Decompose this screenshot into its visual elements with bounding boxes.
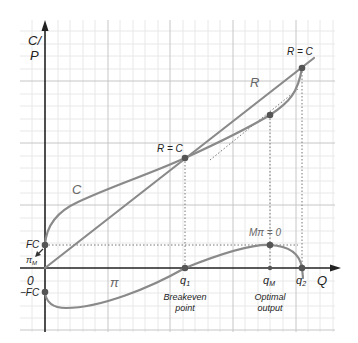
- y-axis-label-line2: P: [30, 48, 39, 63]
- y-axis-arrow-icon: [42, 20, 49, 31]
- major-grid: [20, 20, 335, 332]
- optimal-annotation-line2: output: [257, 303, 283, 313]
- cost-revenue-profit-diagram: C/ P Q 0 R C π R = C R = C Mπ = 0 FC −FC…: [0, 0, 358, 343]
- q1-tick-label: q1: [180, 274, 190, 287]
- neg-fixed-cost-point: [42, 289, 49, 296]
- breakeven-high-point: [299, 65, 306, 72]
- cost-label: C: [72, 182, 82, 197]
- fixed-cost-label: FC: [26, 239, 40, 250]
- qM-tick-label: qM: [263, 274, 275, 287]
- q1-point: [182, 265, 189, 272]
- q2-point: [299, 265, 306, 272]
- fixed-cost-point: [42, 242, 49, 249]
- breakeven-annotation-line2: point: [174, 303, 195, 313]
- diagram-canvas: C/ P Q 0 R C π R = C R = C Mπ = 0 FC −FC…: [0, 0, 358, 343]
- y-axis-label-line1: C/: [28, 33, 42, 48]
- profit-label: π: [110, 275, 119, 290]
- breakeven-annotation-line1: Breakeven: [163, 292, 206, 302]
- optimal-annotation-line1: Optimal: [254, 292, 286, 302]
- neg-fixed-cost-label: −FC: [20, 287, 40, 298]
- max-profit-label: Mπ = 0: [249, 227, 281, 238]
- x-axis-label: Q: [317, 273, 327, 288]
- qM-point: [268, 266, 272, 270]
- x-axis-arrow-icon: [330, 265, 341, 272]
- q2-tick-label: q2: [296, 274, 306, 287]
- revenue-label: R: [250, 75, 259, 90]
- tangent-point: [267, 112, 274, 119]
- origin-label: 0: [27, 274, 34, 288]
- breakeven-low-label: R = C: [157, 143, 184, 154]
- max-profit-point: [267, 242, 274, 249]
- breakeven-high-label: R = C: [287, 46, 314, 57]
- minor-grid: [20, 20, 335, 332]
- breakeven-low-point: [182, 155, 189, 162]
